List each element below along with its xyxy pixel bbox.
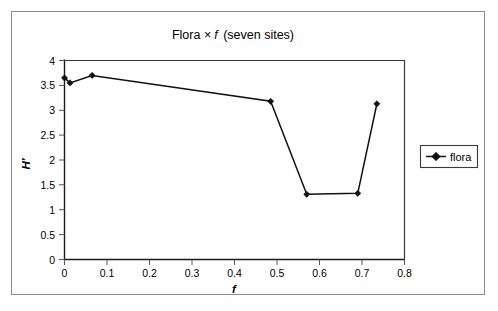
y-tick-label-3: 3 — [49, 104, 55, 116]
data-series-flora — [61, 72, 380, 197]
figure-container: Flora ×f (seven sites) 4 3.5 3 2.5 2 1. — [0, 0, 498, 311]
x-axis-title: f — [232, 283, 237, 295]
legend[interactable]: flora — [421, 146, 478, 168]
data-point-2 — [89, 72, 95, 78]
chart-title: Flora ×f (seven sites) — [172, 28, 294, 42]
x-tick-label-0: 0 — [62, 267, 68, 279]
x-tick-label-0-8: 0.8 — [397, 267, 412, 279]
y-tick-label-2: 2 — [49, 154, 55, 166]
plot-frame — [65, 61, 405, 260]
chart-title-variable: f — [214, 28, 219, 42]
series-line-flora — [65, 75, 377, 194]
x-tick-labels: 0 0.1 0.2 0.3 0.4 0.5 0.6 0.7 0.8 — [62, 267, 412, 279]
chart-canvas: Flora ×f (seven sites) 4 3.5 3 2.5 2 1. — [0, 0, 498, 311]
data-point-5 — [355, 190, 361, 196]
chart-title-suffix: (seven sites) — [220, 28, 294, 42]
y-tick-labels: 4 3.5 3 2.5 2 1.5 1 0.5 0 — [40, 55, 55, 266]
data-point-3 — [268, 98, 274, 104]
chart-title-prefix: Flora — [172, 28, 204, 42]
data-point-6 — [374, 101, 380, 107]
y-tick-label-2-5: 2.5 — [40, 129, 55, 141]
x-tick-label-0-5: 0.5 — [270, 267, 285, 279]
x-tick-label-0-6: 0.6 — [312, 267, 327, 279]
x-tick-label-0-7: 0.7 — [355, 267, 370, 279]
x-axis — [64, 260, 405, 266]
x-tick-label-0-4: 0.4 — [227, 267, 242, 279]
chart-title-symbol: × — [204, 28, 211, 42]
y-axis-title: H′ — [20, 157, 32, 169]
y-tick-label-4: 4 — [49, 55, 55, 67]
y-axis — [59, 60, 65, 261]
y-tick-label-1-5: 1.5 — [40, 179, 55, 191]
legend-label-flora: flora — [450, 151, 472, 163]
y-tick-label-1: 1 — [49, 204, 55, 216]
x-tick-label-0-3: 0.3 — [185, 267, 200, 279]
y-tick-label-0: 0 — [49, 254, 55, 266]
x-tick-label-0-1: 0.1 — [100, 267, 115, 279]
data-point-4 — [304, 191, 310, 197]
y-tick-label-0-5: 0.5 — [40, 229, 55, 241]
y-tick-label-3-5: 3.5 — [40, 79, 55, 91]
x-tick-label-0-2: 0.2 — [142, 267, 157, 279]
